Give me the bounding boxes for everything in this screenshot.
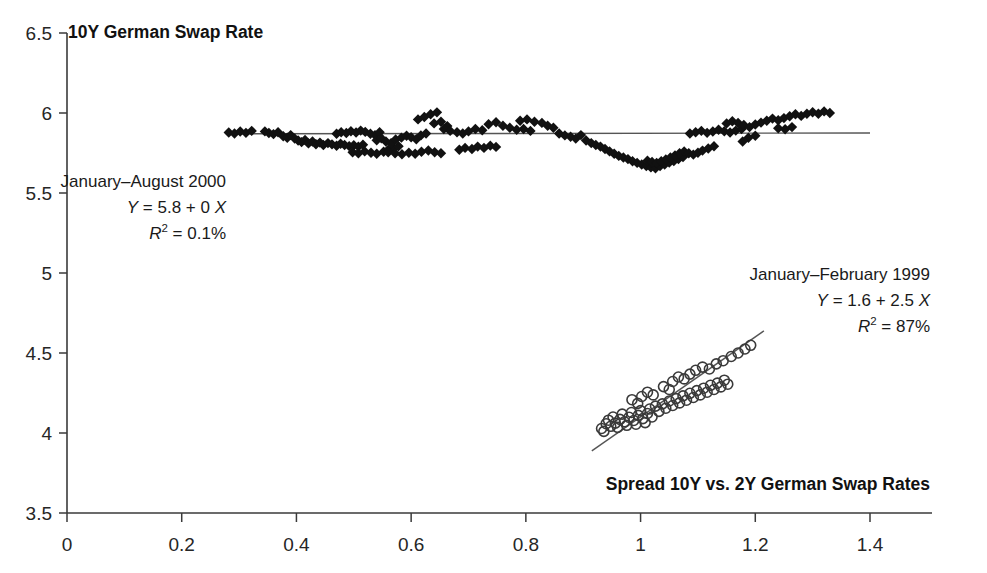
annotation-1999: January–February 1999 Y = 1.6 + 2.5 X R2… — [749, 265, 930, 336]
y-tick-group — [59, 33, 67, 513]
x-tick-label: 0.8 — [513, 534, 539, 555]
chart-canvas: 3.544.555.566.5 00.20.40.60.811.21.4 10Y… — [0, 0, 987, 573]
y-tick-label: 4 — [41, 423, 52, 444]
regression-line-2000 — [228, 133, 870, 134]
annot-1999-r-body: = 87% — [877, 317, 930, 336]
y-axis: 3.544.555.566.5 — [26, 23, 67, 524]
y-tick-label: 5.5 — [26, 183, 52, 204]
annot-2000-x-symbol: X — [214, 198, 227, 217]
y-tick-label: 6.5 — [26, 23, 52, 44]
x-tick-group — [67, 513, 870, 522]
annot-2000-r-body: = 0.1% — [168, 224, 226, 243]
annotation-2000: January–August 2000 Y = 5.8 + 0 X R2 = 0… — [61, 172, 227, 243]
regression-lines — [228, 133, 870, 451]
x-tick-label: 0.4 — [283, 534, 310, 555]
x-axis: 00.20.40.60.811.21.4 — [62, 513, 932, 555]
annot-2000-line3: R2 = 0.1% — [149, 222, 226, 243]
annot-2000-r-symbol: R — [149, 224, 161, 243]
annot-2000-eq-body: = 5.8 + 0 — [138, 198, 215, 217]
annot-1999-r-symbol: R — [858, 317, 870, 336]
y-tick-label-group: 3.544.555.566.5 — [26, 23, 53, 524]
x-tick-label-group: 00.20.40.60.811.21.4 — [62, 534, 884, 555]
annot-1999-eq-body: = 1.6 + 2.5 — [828, 291, 919, 310]
y-tick-label: 5 — [41, 263, 52, 284]
y-axis-title: 10Y German Swap Rate — [68, 22, 263, 42]
annot-2000-line2: Y = 5.8 + 0 X — [127, 198, 227, 217]
annot-1999-x-symbol: X — [918, 291, 931, 310]
y-tick-label: 3.5 — [26, 503, 52, 524]
y-tick-label: 4.5 — [26, 343, 52, 364]
annot-1999-line3: R2 = 87% — [858, 315, 930, 336]
x-tick-label: 0 — [62, 534, 73, 555]
x-tick-label: 0.2 — [169, 534, 195, 555]
x-tick-label: 1 — [635, 534, 646, 555]
annot-1999-line2: Y = 1.6 + 2.5 X — [817, 291, 931, 310]
scatter-chart: 3.544.555.566.5 00.20.40.60.811.21.4 10Y… — [0, 0, 987, 573]
x-tick-label: 1.4 — [857, 534, 884, 555]
series-january-february-1999 — [597, 340, 756, 436]
annot-1999-line1: January–February 1999 — [749, 265, 930, 284]
x-axis-title: Spread 10Y vs. 2Y German Swap Rates — [606, 474, 931, 494]
y-tick-label: 6 — [41, 103, 52, 124]
x-tick-label: 1.2 — [742, 534, 768, 555]
x-tick-label: 0.6 — [398, 534, 424, 555]
series-january-august-2000 — [224, 106, 836, 173]
annot-2000-line1: January–August 2000 — [61, 172, 226, 191]
